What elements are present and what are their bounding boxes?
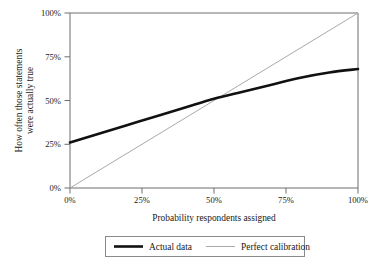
y-axis-title-line1: How often those statements [14, 48, 24, 152]
x-axis-title: Probability respondents assigned [152, 213, 276, 223]
y-tick-label-0: 0% [50, 183, 61, 193]
y-tick-label-100: 100% [41, 8, 61, 18]
calibration-chart: 100% 75% 50% 25% 0% 0% 25% 50% 75% 100% [0, 0, 380, 266]
y-axis-title-line2: were actually true [25, 67, 35, 134]
y-axis-title: How often those statements were actually… [14, 48, 35, 152]
y-axis-tick-labels: 100% 75% 50% 25% 0% [41, 8, 61, 193]
y-tick-label-50: 50% [45, 96, 61, 106]
y-tick-label-25: 25% [45, 139, 61, 149]
x-tick-label-0: 0% [64, 195, 75, 205]
x-tick-label-75: 75% [278, 195, 294, 205]
x-tick-label-100: 100% [348, 195, 368, 205]
chart-canvas: 100% 75% 50% 25% 0% 0% 25% 50% 75% 100% [0, 0, 380, 266]
legend-label-perfect-calibration: Perfect calibration [241, 242, 310, 252]
series-perfect-calibration [70, 13, 358, 188]
y-axis-ticks [65, 13, 71, 188]
legend-label-actual-data: Actual data [149, 242, 193, 252]
data-series-group [70, 13, 358, 188]
chart-legend: Actual data Perfect calibration [106, 237, 311, 257]
x-axis-tick-labels: 0% 25% 50% 75% 100% [64, 195, 368, 205]
x-tick-label-50: 50% [206, 195, 222, 205]
x-axis-ticks [70, 188, 358, 194]
x-tick-label-25: 25% [134, 195, 150, 205]
y-tick-label-75: 75% [45, 52, 61, 62]
series-actual-data [70, 69, 358, 143]
